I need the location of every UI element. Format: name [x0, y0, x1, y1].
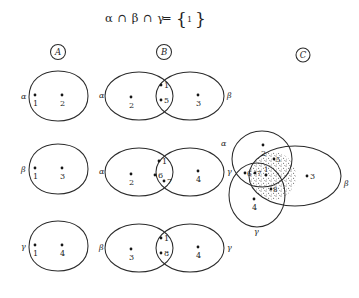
point-marker	[163, 180, 166, 183]
row-1-col-b: α β 2 1 5 3	[99, 72, 232, 120]
venn-figure-root: α ∩ β ∩ γ = { 1 } A B C α 1 2	[0, 0, 359, 298]
row-3-col-b-intersection-1: 8	[164, 249, 169, 258]
column-header-c: C	[296, 48, 310, 62]
venn-label-beta: β	[343, 179, 349, 188]
row-1-col-b-left-only-0: 2	[129, 101, 134, 110]
row-1-col-b-left-label: α	[99, 91, 105, 100]
title-lhs: α ∩ β ∩ γ	[105, 11, 165, 25]
row-2-col-a-set-label: β	[20, 165, 26, 174]
point-marker	[61, 244, 64, 247]
point-marker	[130, 96, 133, 99]
point-marker	[306, 175, 309, 178]
point-marker	[61, 94, 64, 97]
point-marker	[160, 84, 163, 87]
title-brace-close: }	[195, 9, 206, 29]
column-header-c-label: C	[300, 50, 307, 60]
point-marker	[34, 244, 37, 247]
venn-gamma-only-0: 4	[252, 203, 257, 212]
point-marker	[130, 173, 133, 176]
title-equals: =	[162, 11, 172, 25]
point-marker	[197, 246, 200, 249]
row-3-col-b: β γ 3 1 8 4	[98, 224, 232, 272]
row-2-col-a-element-1: 3	[60, 172, 65, 181]
row-3-col-b-left-label: β	[98, 243, 104, 252]
title-set-member: 1	[187, 15, 192, 24]
row-2-col-b-intersection-0: 1	[162, 157, 167, 166]
row-3-col-a-set-label: γ	[21, 242, 26, 251]
point-marker	[270, 188, 273, 191]
venn-label-alpha: α	[221, 139, 227, 148]
row-2-col-b-intersection-2: 7	[167, 177, 172, 186]
venn-shaded-region-beta	[248, 152, 296, 200]
column-header-a-label: A	[54, 47, 61, 57]
row-2-col-a-element-0: 1	[33, 172, 38, 181]
row-3-col-b-left-only-0: 3	[129, 253, 134, 262]
venn-alpha-gamma-1: 7	[257, 170, 261, 178]
point-marker	[262, 144, 265, 147]
point-marker	[34, 94, 37, 97]
row-3-col-a-element-1: 4	[60, 249, 65, 258]
column-header-a: A	[51, 45, 66, 60]
point-marker	[197, 170, 200, 173]
title-brace-open: {	[176, 9, 187, 29]
point-marker	[34, 167, 37, 170]
row-2-col-b-right-only-0: 4	[196, 175, 201, 184]
row-3-col-b-intersection-0: 1	[164, 234, 169, 243]
column-header-b-label: B	[160, 47, 167, 57]
row-2-col-b-left-label: α	[99, 167, 105, 176]
row-1-col-a-set-label: α	[21, 92, 27, 101]
row-2-col-b-left-only-0: 2	[129, 178, 134, 187]
point-marker	[160, 237, 163, 240]
point-marker	[254, 172, 257, 175]
venn-label-gamma: γ	[254, 227, 259, 236]
point-marker	[197, 94, 200, 97]
point-marker	[160, 252, 163, 255]
point-marker	[154, 174, 157, 177]
venn-beta-only-0: 3	[310, 172, 315, 181]
figure-title: α ∩ β ∩ γ = { 1 }	[105, 9, 206, 29]
row-2-col-b-right-label: γ	[227, 167, 232, 176]
point-marker	[265, 174, 268, 177]
venn-beta-gamma-0: 8	[273, 186, 277, 194]
point-marker	[61, 167, 64, 170]
point-marker	[158, 160, 161, 163]
row-2-col-b: α γ 2 1 6 7 4	[99, 148, 232, 196]
row-1-col-b-intersection-0: 1	[164, 81, 169, 90]
col-c-three-set-venn: α β γ 2 3 4 6 7 5 8 1	[221, 131, 349, 236]
figure-canvas: α ∩ β ∩ γ = { 1 } A B C α 1 2	[0, 0, 359, 298]
row-1-col-a-element-0: 1	[33, 99, 38, 108]
venn-alpha-gamma-0: 6	[247, 170, 252, 178]
venn-triple-0: 1	[264, 166, 268, 174]
row-1-col-b-intersection-1: 5	[164, 96, 169, 105]
row-2-col-b-intersection-1: 6	[158, 171, 163, 180]
point-marker	[130, 248, 133, 251]
column-header-b: B	[157, 45, 172, 60]
point-marker	[160, 99, 163, 102]
row-3-col-a: γ 1 4	[21, 221, 88, 271]
point-marker	[273, 158, 276, 161]
venn-alpha-beta-0: 5	[276, 156, 280, 164]
venn-alpha-only-0: 2	[261, 149, 266, 158]
row-1-col-a-element-1: 2	[60, 99, 65, 108]
row-3-col-a-element-0: 1	[33, 249, 38, 258]
point-marker	[244, 172, 247, 175]
row-2-col-a: β 1 3	[20, 144, 88, 194]
row-3-col-b-right-only-0: 4	[196, 251, 201, 260]
row-1-col-a: α 1 2	[21, 71, 88, 121]
row-1-col-b-right-label: β	[226, 91, 232, 100]
row-1-col-b-right-only-0: 3	[196, 99, 201, 108]
row-3-col-b-right-label: γ	[227, 243, 232, 252]
point-marker	[253, 198, 256, 201]
